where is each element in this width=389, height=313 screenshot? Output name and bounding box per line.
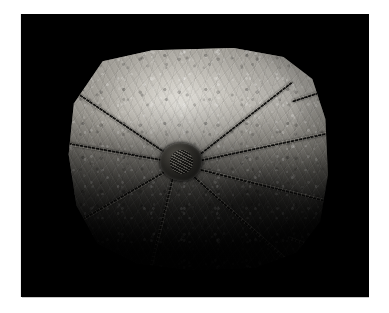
leg-3b (352, 196, 369, 201)
leg-7b (21, 213, 67, 287)
leg-2b (348, 136, 369, 142)
leg-6b (21, 111, 60, 148)
leg-1b (292, 73, 369, 103)
leg-5b (21, 82, 70, 108)
leg-2 (199, 127, 348, 162)
leg-1 (196, 81, 293, 158)
page-root (0, 0, 389, 313)
fossil-photograph (21, 14, 369, 297)
leg-6 (59, 141, 163, 162)
leg-8 (140, 178, 175, 297)
fossil-rock-slab (66, 48, 328, 270)
leg-8b (137, 271, 143, 297)
leg-7 (65, 170, 166, 230)
plate-edge-bottom (22, 297, 369, 298)
leg-4b (287, 236, 369, 272)
